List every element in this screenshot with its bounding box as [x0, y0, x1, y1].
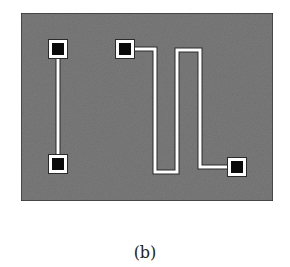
pad-bottom-left [49, 155, 68, 174]
figure-caption: (b) [0, 243, 290, 262]
pad-bottom-right [228, 158, 247, 177]
resistor-layout-figure [0, 0, 290, 267]
pad-top-left [49, 40, 68, 59]
pad-top-meander [116, 40, 135, 59]
